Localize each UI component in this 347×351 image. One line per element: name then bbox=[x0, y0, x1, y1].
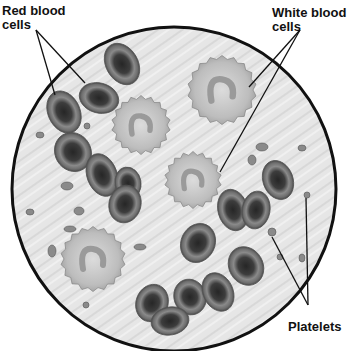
label-red-blood-cells: Red blood cells bbox=[2, 4, 66, 32]
platelet bbox=[36, 132, 44, 138]
platelet bbox=[304, 192, 310, 198]
platelet bbox=[48, 245, 56, 257]
label-white-line-2: cells bbox=[272, 20, 346, 34]
microscope-field-illustration bbox=[0, 0, 347, 351]
platelet bbox=[61, 182, 73, 190]
label-platelets: Platelets bbox=[288, 320, 341, 334]
platelet bbox=[298, 145, 306, 151]
platelet bbox=[134, 244, 146, 250]
platelet bbox=[84, 123, 90, 129]
platelet bbox=[64, 226, 76, 232]
blood-cell-diagram: Red blood cells White blood cells Platel… bbox=[0, 0, 347, 351]
platelet bbox=[299, 254, 305, 262]
label-red-line-1: Red blood bbox=[2, 4, 66, 18]
platelet bbox=[26, 209, 34, 215]
platelet bbox=[83, 302, 89, 308]
platelet bbox=[74, 207, 84, 215]
platelet bbox=[256, 143, 268, 151]
label-white-line-1: White blood bbox=[272, 6, 346, 20]
platelet bbox=[248, 155, 256, 165]
label-white-blood-cells: White blood cells bbox=[272, 6, 346, 34]
label-red-line-2: cells bbox=[2, 18, 66, 32]
platelet bbox=[268, 228, 276, 236]
